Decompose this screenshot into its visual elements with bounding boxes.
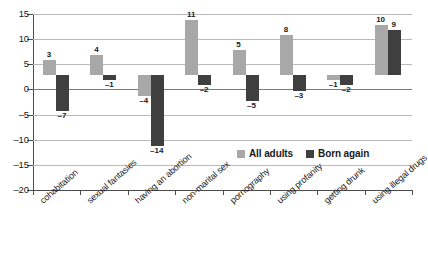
bar-group: –4–14 [128, 0, 175, 176]
bar [185, 20, 198, 75]
bar [198, 75, 211, 85]
x-axis-tick [365, 190, 366, 195]
bar-value-label: 8 [275, 26, 297, 34]
bar [293, 75, 306, 90]
bar [138, 75, 151, 95]
bar-value-label: –7 [51, 112, 73, 120]
bar [375, 25, 388, 75]
x-axis-tick [317, 190, 318, 195]
bar-value-label: –14 [146, 147, 168, 155]
bar-group: –1–2 [317, 0, 364, 176]
bar-value-label: –1 [98, 81, 120, 89]
x-axis-tick [128, 190, 129, 195]
bar-value-label: 5 [228, 41, 250, 49]
x-axis-tick [80, 190, 81, 195]
y-axis-tick-label: 10 [0, 34, 29, 44]
x-axis-tick [412, 190, 413, 195]
x-axis-tick [175, 190, 176, 195]
bar [43, 60, 56, 75]
bar-value-label: –3 [288, 92, 310, 100]
bar [280, 35, 293, 75]
bar-value-label: 9 [383, 21, 405, 29]
bar [56, 75, 69, 110]
y-axis-tick-label: –15 [0, 160, 29, 170]
x-axis-tick [270, 190, 271, 195]
bar-group: 8–3 [270, 0, 317, 176]
bar-value-label: 4 [85, 46, 107, 54]
bar-group: 5–5 [223, 0, 270, 176]
x-axis-tick [223, 190, 224, 195]
bar-value-label: –5 [241, 102, 263, 110]
bar [233, 50, 246, 75]
bar-value-label: –2 [193, 86, 215, 94]
x-axis-tick [33, 190, 34, 195]
bar [388, 30, 401, 75]
bar [151, 75, 164, 145]
bar-group: 3–7 [33, 0, 80, 176]
bar [246, 75, 259, 100]
bar-value-label: –2 [335, 86, 357, 94]
y-axis-tick-label: 0 [0, 84, 29, 94]
y-axis-tick-label: 5 [0, 59, 29, 69]
bar-value-label: 11 [180, 11, 202, 19]
bar [340, 75, 353, 85]
y-axis-tick-label: –10 [0, 135, 29, 145]
y-axis-tick-label: 15 [0, 9, 29, 19]
bar-group: 11–2 [175, 0, 222, 176]
bar [90, 55, 103, 75]
bar-value-label: 3 [38, 51, 60, 59]
y-axis-tick-label: –20 [0, 185, 29, 195]
bar-group: 109 [365, 0, 412, 176]
y-axis-tick-label: –5 [0, 110, 29, 120]
bar-group: 4–1 [80, 0, 127, 176]
